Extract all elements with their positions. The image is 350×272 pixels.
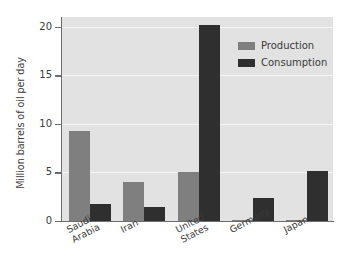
gridline (62, 27, 333, 28)
y-tick-mark (55, 172, 62, 173)
y-tick-label: 0 (12, 216, 52, 226)
bar-consumption-japan (307, 171, 328, 221)
legend: ProductionConsumption (238, 38, 338, 72)
y-tick-label: 20 (12, 22, 52, 32)
y-tick-mark (55, 75, 62, 76)
legend-label-consumption: Consumption (261, 57, 327, 68)
y-tick-mark (55, 221, 62, 222)
legend-swatch-consumption (238, 59, 255, 67)
legend-swatch-production (238, 42, 255, 50)
gridline (62, 75, 333, 76)
bar-production-saudi-arabia (69, 131, 90, 221)
legend-item-production: Production (238, 38, 338, 53)
y-tick-label: 10 (12, 119, 52, 129)
legend-label-production: Production (261, 40, 314, 51)
gridline (62, 124, 333, 125)
y-tick-mark (55, 27, 62, 28)
bar-production-iran (123, 182, 144, 221)
legend-item-consumption: Consumption (238, 55, 338, 70)
y-tick-mark (55, 124, 62, 125)
bar-consumption-iran (144, 207, 165, 221)
y-tick-label: 15 (12, 70, 52, 80)
y-tick-label: 5 (12, 167, 52, 177)
bar-consumption-united-states (199, 25, 220, 221)
bar-chart: Million barrels of oil per day 05101520 … (0, 0, 350, 272)
